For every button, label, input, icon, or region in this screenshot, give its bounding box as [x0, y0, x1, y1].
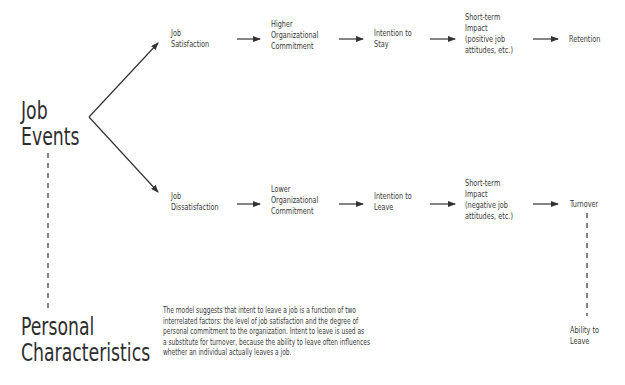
node-higher-commitment: HigherOrganizationalCommitment	[271, 19, 318, 52]
node-job-satisfaction: JobSatisfaction	[171, 28, 209, 50]
node-turnover: Turnover	[570, 199, 598, 210]
arrow-to-dissatisfaction	[89, 117, 158, 192]
node-short-term-negative: Short-termImpact(negative jobattitudes, …	[465, 178, 513, 222]
node-intention-to-stay: Intention toStay	[374, 28, 412, 50]
node-job-dissatisfaction: JobDissatisfaction	[171, 191, 219, 213]
model-explanation-note: The model suggests that intent to leave …	[163, 306, 370, 359]
node-ability-to-leave: Ability toLeave	[570, 325, 599, 347]
job-events-label: Job Events	[21, 98, 79, 150]
node-retention: Retention	[569, 34, 600, 45]
arrow-to-satisfaction	[89, 43, 158, 117]
node-intention-to-leave: Intention toLeave	[374, 191, 412, 213]
node-lower-commitment: LowerOrganizationalCommitment	[271, 184, 318, 217]
node-short-term-positive: Short-termImpact(positive jobattitudes, …	[465, 12, 513, 56]
personal-characteristics-label: Personal Characteristics	[21, 314, 150, 366]
